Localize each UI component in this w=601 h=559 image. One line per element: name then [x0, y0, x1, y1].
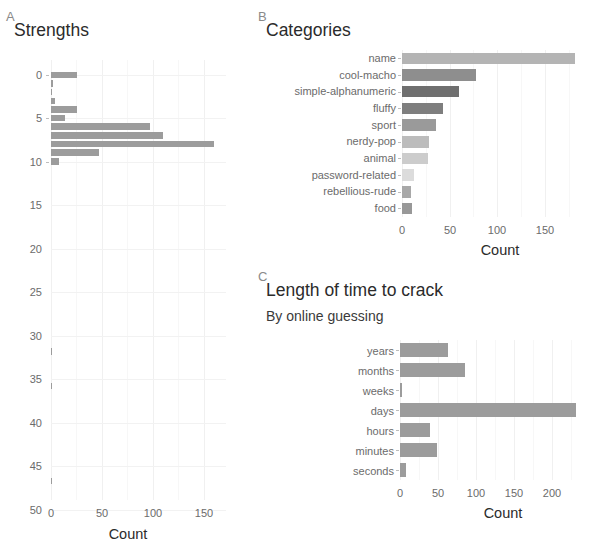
panel-a-ytick-label-30: 30 [10, 331, 42, 342]
panel-c-ytick-label-years: years [280, 346, 394, 357]
panel-c-bar-years [400, 343, 448, 358]
panel-c-xtick-label-150: 150 [494, 488, 534, 499]
panel-c-bar-months [400, 363, 465, 378]
panel-c-xtick-label-0: 0 [380, 488, 420, 499]
panel-b-ytick-label-password-related: password-related [250, 170, 396, 181]
panel-a-title: Strengths [14, 22, 89, 40]
panel-c-subtitle: By online guessing [266, 309, 384, 323]
panel-a-hgrid-25 [51, 292, 226, 293]
panel-b-gridline-125 [521, 50, 522, 217]
panel-c-bar-weeks [400, 383, 402, 398]
panel-a-bar-2 [51, 89, 52, 96]
panel-a-ytick-label-0: 0 [10, 70, 42, 81]
panel-b-bar-cool-macho [402, 69, 476, 81]
panel-b-ytick-mark-3 [398, 108, 401, 109]
panel-a-xtick-label-100: 100 [133, 508, 173, 519]
panel-b-ytick-mark-6 [398, 158, 401, 159]
panel-b-ytick-label-food: food [250, 203, 396, 214]
panel-c-ytick-label-hours: hours [280, 426, 394, 437]
panel-b-ytick-mark-1 [398, 75, 401, 76]
panel-a-bar-7 [51, 132, 163, 139]
panel-c-ytick-label-weeks: weeks [280, 386, 394, 397]
panel-b-ytick-label-sport: sport [250, 120, 396, 131]
panel-b-ytick-mark-5 [398, 142, 401, 143]
panel-c-xtick-label-200: 200 [532, 488, 572, 499]
panel-b-ytick-label-simple-alphanumeric: simple-alphanumeric [250, 86, 396, 97]
panel-b-xtick-label-0: 0 [382, 225, 422, 236]
panel-b-ytick-label-cool-macho: cool-macho [250, 70, 396, 81]
panel-a-ytick-label-5: 5 [10, 113, 42, 124]
panel-a-bar-0 [51, 72, 77, 79]
panel-c-ytick-mark-0 [396, 350, 399, 351]
panel-a-ytick-label-45: 45 [10, 461, 42, 472]
panel-a-hgrid-10 [51, 162, 226, 163]
panel-c-ytick-label-seconds: seconds [280, 466, 394, 477]
panel-a-ytick-mark-10 [46, 162, 49, 163]
panel-c: C Length of time to crack By online gues… [250, 265, 601, 559]
panel-c-title: Length of time to crack [266, 282, 443, 300]
panel-a-bar-6 [51, 123, 150, 130]
panel-c-plot-area [400, 340, 598, 480]
panel-b: B Categories name cool-macho sim [250, 0, 601, 265]
panel-c-bar-hours [400, 423, 430, 438]
panel-c-ytick-mark-4 [396, 430, 399, 431]
panel-a-bar-1 [51, 80, 53, 87]
panel-b-ytick-label-rebellious-rude: rebellious-rude [250, 186, 396, 197]
panel-a-bar-5 [51, 115, 65, 122]
panel-a-ytick-label-10: 10 [10, 157, 42, 168]
panel-a-hgrid-35 [51, 379, 226, 380]
panel-a-bar-32 [51, 348, 52, 355]
panel-a-xaxis-title: Count [78, 527, 178, 542]
panel-b-ytick-label-name: name [250, 53, 396, 64]
panel-a-ytick-label-25: 25 [10, 287, 42, 298]
panel-b-ytick-label-animal: animal [250, 153, 396, 164]
panel-b-xtick-label-50: 50 [430, 225, 470, 236]
panel-c-ytick-mark-6 [396, 470, 399, 471]
panel-c-ytick-mark-2 [396, 390, 399, 391]
panel-a-ytick-mark-0 [46, 75, 49, 76]
panel-a-hgrid-5 [51, 118, 226, 119]
panel-b-bar-fluffy [402, 103, 443, 115]
panel-b-gridline-150 [545, 50, 546, 217]
panel-a-bar-9 [51, 149, 99, 156]
panel-b-bar-password-related [402, 169, 414, 181]
panel-b-ytick-label-fluffy: fluffy [250, 103, 396, 114]
panel-c-xaxis-title: Count [453, 506, 553, 521]
panel-c-ytick-mark-1 [396, 370, 399, 371]
panel-c-ytick-label-minutes: minutes [280, 446, 394, 457]
panel-b-bar-name [402, 53, 575, 65]
panel-b-bar-food [402, 203, 412, 215]
panel-c-ytick-mark-3 [396, 410, 399, 411]
panel-b-ytick-mark-9 [398, 208, 401, 209]
panel-c-bar-minutes [400, 443, 437, 458]
panel-b-gridline-175 [569, 50, 570, 217]
panel-b-ytick-mark-8 [398, 192, 401, 193]
panel-c-ytick-label-days: days [280, 406, 394, 417]
panel-b-plot-area [402, 50, 598, 217]
panel-a-ytick-label-35: 35 [10, 374, 42, 385]
panel-a-ytick-label-40: 40 [10, 418, 42, 429]
panel-b-bar-animal [402, 153, 428, 165]
panel-a-bar-4 [51, 106, 77, 113]
panel-b-xaxis-title: Count [450, 243, 550, 258]
panel-c-bar-seconds [400, 463, 406, 478]
panel-b-ytick-label-nerdy-pop: nerdy-pop [250, 136, 396, 147]
panel-a-xtick-label-0: 0 [31, 508, 71, 519]
panel-a-hgrid-40 [51, 423, 226, 424]
panel-b-title: Categories [266, 22, 351, 40]
panel-a-bar-47 [51, 478, 52, 485]
panel-a-ytick-label-20: 20 [10, 244, 42, 255]
panel-a-hgrid-30 [51, 336, 226, 337]
panel-c-bar-days [400, 403, 576, 418]
panel-a-ytick-mark-5 [46, 118, 49, 119]
panel-a-gridline-100 [153, 60, 154, 500]
panel-a-plot-area [51, 60, 226, 500]
panel-a-gridline-150 [204, 60, 205, 500]
panel-a-hgrid-15 [51, 205, 226, 206]
panel-c-ytick-label-months: months [280, 366, 394, 377]
panel-c-ytick-mark-5 [396, 450, 399, 451]
panel-a-ytick-label-15: 15 [10, 200, 42, 211]
panel-a: A Strengths [0, 0, 250, 559]
figure-container: A Strengths [0, 0, 601, 559]
panel-a-hgrid-45 [51, 466, 226, 467]
